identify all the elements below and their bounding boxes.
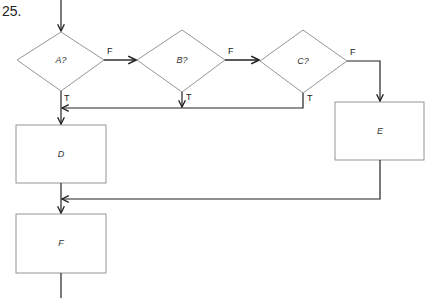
edge-c-false: F [347,47,380,101]
edge-b-true-label: T [186,92,192,102]
decision-c-label: C? [297,56,309,66]
flowchart: 25. A? B? C? D [0,0,425,298]
edge-b-false: F [225,46,259,60]
edge-e-to-f [62,160,380,199]
process-f: F [16,214,106,273]
decision-b-label: B? [176,55,187,65]
edge-a-true-label: T [64,93,70,103]
decision-b: B? [137,30,225,92]
edge-b-true: T [182,92,192,107]
process-d-label: D [58,149,65,159]
edge-c-true-label: T [307,93,313,103]
edge-b-false-label: F [228,46,234,56]
edge-c-false-label: F [350,47,356,57]
process-e: E [335,102,424,160]
flowchart-canvas: A? B? C? D E F F [0,0,425,298]
decision-a-label: A? [54,55,66,65]
edge-a-false-label: F [107,46,113,56]
decision-c: C? [260,30,347,93]
process-f-label: F [58,238,64,248]
process-e-label: E [377,126,384,136]
edge-a-false: F [104,46,136,60]
process-d: D [16,125,106,183]
problem-number: 25. [2,3,21,19]
decision-a: A? [17,32,104,91]
